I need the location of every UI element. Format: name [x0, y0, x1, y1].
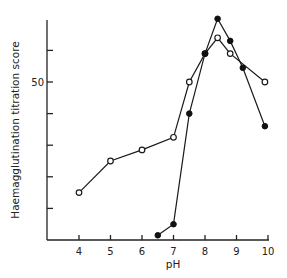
open-circle-marker-icon: [139, 147, 145, 153]
filled-circle-marker-icon: [215, 16, 221, 22]
filled-circle-marker-icon: [240, 65, 246, 71]
filled-circle-marker-icon: [171, 221, 177, 227]
filled-circle-marker-icon: [155, 233, 161, 239]
x-tick-label: 6: [139, 246, 145, 257]
plot-area: [76, 16, 268, 238]
y-axis-label: Haemagglutination titration score: [9, 41, 21, 219]
x-axis: 45678910 pH: [47, 235, 274, 270]
open-circle-marker-icon: [108, 158, 114, 164]
x-tick-label: 7: [170, 246, 176, 257]
x-tick-label: 4: [76, 246, 82, 257]
x-tick-label: 5: [107, 246, 113, 257]
x-axis-label: pH: [166, 258, 181, 270]
x-tick-label: 8: [202, 246, 208, 257]
series-line: [158, 19, 265, 236]
open-circle-marker-icon: [187, 79, 193, 85]
x-tick-label: 10: [262, 246, 275, 257]
chart: 50 Haemagglutination titration score 456…: [0, 0, 287, 278]
y-tick-label: 50: [31, 77, 44, 88]
x-tick-label: 9: [233, 246, 239, 257]
series-filled-circles: [155, 16, 268, 238]
filled-circle-marker-icon: [187, 111, 193, 117]
y-ticks: 50: [31, 50, 53, 208]
filled-circle-marker-icon: [262, 123, 268, 129]
series-line: [79, 38, 265, 193]
open-circle-marker-icon: [76, 190, 82, 196]
open-circle-marker-icon: [215, 35, 221, 41]
x-ticks: 45678910: [76, 235, 275, 257]
filled-circle-marker-icon: [227, 38, 233, 44]
open-circle-marker-icon: [227, 51, 233, 57]
y-axis: 50 Haemagglutination titration score: [9, 20, 53, 240]
open-circle-marker-icon: [262, 79, 268, 85]
open-circle-marker-icon: [171, 135, 177, 141]
filled-circle-marker-icon: [202, 51, 208, 57]
